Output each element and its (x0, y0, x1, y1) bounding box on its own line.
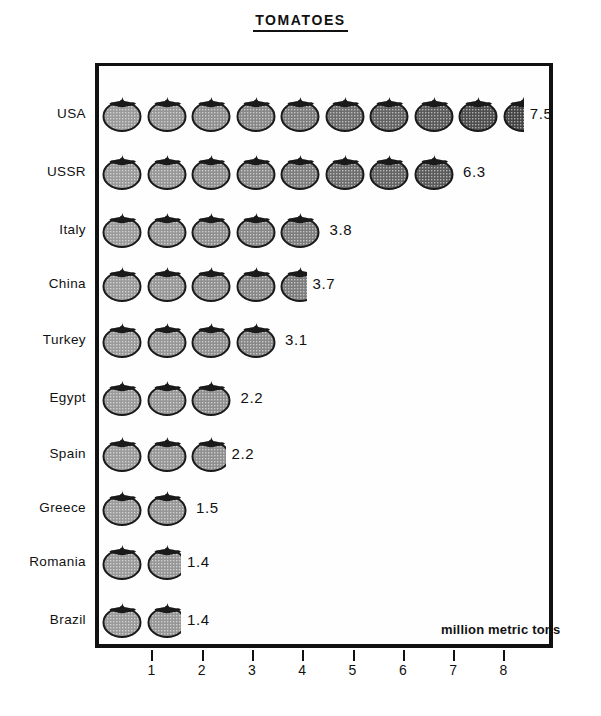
tomato-icon (101, 88, 146, 140)
row-value-usa: 7.5 (530, 88, 553, 140)
tomato-icon (279, 146, 324, 198)
row-value-greece: 1.5 (196, 482, 219, 534)
axis-tick-label: 2 (190, 662, 214, 678)
row-icons (101, 594, 181, 646)
axis-tick-mark (353, 650, 355, 661)
tomato-icon (235, 314, 280, 366)
row-label-turkey: Turkey (0, 314, 86, 366)
tomato-icon-partial (190, 428, 226, 480)
tomato-icon (190, 314, 235, 366)
axis-tick-mark (503, 650, 505, 661)
tomato-icon (101, 258, 146, 310)
row-icons (101, 314, 279, 366)
tomato-icon (279, 204, 324, 256)
tomato-icon (190, 146, 235, 198)
row-label-brazil: Brazil (0, 594, 86, 646)
tomato-icon (101, 594, 146, 646)
tomato-icon-partial (146, 594, 182, 646)
tomato-icon (146, 88, 191, 140)
tomato-icon (235, 88, 280, 140)
tomato-icon (101, 536, 146, 588)
tomato-icon (101, 372, 146, 424)
tomato-icon (368, 146, 413, 198)
pictogram-row: Spain 2.2 (0, 428, 601, 480)
axis-tick-mark (403, 650, 405, 661)
tomato-icon (324, 146, 369, 198)
row-label-italy: Italy (0, 204, 86, 256)
tomato-icon (324, 88, 369, 140)
row-label-ussr: USSR (0, 146, 86, 198)
axis-tick-label: 4 (290, 662, 314, 678)
tomato-icon (101, 482, 146, 534)
tomato-icon (235, 146, 280, 198)
tomato-icon (101, 314, 146, 366)
axis-tick-mark (202, 650, 204, 661)
axis-tick-label: 5 (341, 662, 365, 678)
row-value-china: 3.7 (313, 258, 336, 310)
tomato-icon (413, 88, 458, 140)
tomato-icon (190, 258, 235, 310)
tomato-icon (101, 146, 146, 198)
tomato-icon (413, 146, 458, 198)
row-value-spain: 2.2 (232, 428, 255, 480)
tomato-icon (190, 88, 235, 140)
row-label-spain: Spain (0, 428, 86, 480)
row-icons (101, 88, 524, 140)
axis-tick-label: 8 (491, 662, 515, 678)
row-label-romania: Romania (0, 536, 86, 588)
row-label-usa: USA (0, 88, 86, 140)
axis-units-label: million metric tons (441, 622, 560, 637)
row-value-brazil: 1.4 (187, 594, 210, 646)
tomato-icon (190, 372, 235, 424)
tomato-icon (146, 314, 191, 366)
row-icons (101, 536, 181, 588)
row-value-ussr: 6.3 (463, 146, 486, 198)
pictogram-row: Brazil 1.4 (0, 594, 601, 646)
pictogram-row: China (0, 258, 601, 310)
row-icons (101, 428, 226, 480)
x-axis: 12345678 (0, 648, 601, 688)
axis-tick-mark (252, 650, 254, 661)
row-label-greece: Greece (0, 482, 86, 534)
tomato-icon (279, 88, 324, 140)
tomato-icon (368, 88, 413, 140)
row-icons (101, 146, 457, 198)
pictogram-row: Turkey (0, 314, 601, 366)
tomato-icon (235, 204, 280, 256)
axis-tick-mark (151, 650, 153, 661)
axis-tick-label: 3 (240, 662, 264, 678)
tomato-icon (146, 372, 191, 424)
pictogram-row: USA (0, 88, 601, 140)
pictogram-row: USSR (0, 146, 601, 198)
tomato-icon (101, 428, 146, 480)
row-icons (101, 204, 324, 256)
tomato-icon (146, 428, 191, 480)
tomato-icon-partial (502, 88, 524, 140)
pictogram-row: Egypt 2.2 (0, 372, 601, 424)
axis-tick-label: 7 (441, 662, 465, 678)
tomato-icon (190, 204, 235, 256)
tomato-icon (235, 258, 280, 310)
tomato-icon (457, 88, 502, 140)
page-title: TOMATOES (0, 12, 601, 32)
tomato-icon (146, 482, 191, 534)
row-value-egypt: 2.2 (241, 372, 264, 424)
row-label-egypt: Egypt (0, 372, 86, 424)
row-value-turkey: 3.1 (285, 314, 308, 366)
tomato-icon-partial (146, 536, 182, 588)
row-value-italy: 3.8 (330, 204, 353, 256)
row-icons (101, 482, 190, 534)
tomato-icon (146, 146, 191, 198)
pictogram-row: Italy (0, 204, 601, 256)
tomato-icon (146, 258, 191, 310)
row-label-china: China (0, 258, 86, 310)
tomato-icon (101, 204, 146, 256)
axis-tick-mark (302, 650, 304, 661)
chart-title-text: TOMATOES (253, 12, 348, 32)
axis-tick-label: 6 (391, 662, 415, 678)
row-value-romania: 1.4 (187, 536, 210, 588)
pictogram-row: Greece 1.5 (0, 482, 601, 534)
tomato-icon (146, 204, 191, 256)
tomato-icon-partial (279, 258, 307, 310)
axis-tick-mark (453, 650, 455, 661)
